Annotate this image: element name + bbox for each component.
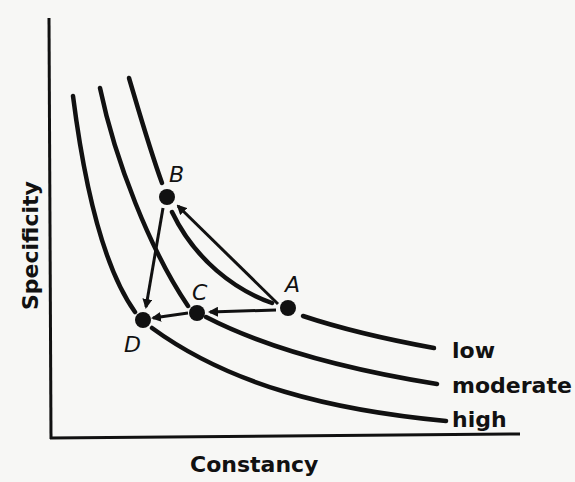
curve-label-low: low	[452, 338, 495, 363]
curve-label-moderate: moderate	[452, 373, 572, 398]
label-B: B	[169, 162, 184, 187]
curve-low-tail	[303, 316, 434, 348]
x-axis-label: Constancy	[190, 452, 318, 477]
y-axis	[49, 18, 51, 439]
arrow-A-to-C	[210, 310, 276, 312]
curve-low	[129, 78, 162, 183]
point-D	[135, 312, 151, 328]
x-axis	[50, 434, 520, 438]
point-C	[189, 305, 205, 321]
y-axis-label: Specificity	[18, 181, 43, 310]
axes	[49, 18, 520, 439]
curve-low-mid	[172, 212, 272, 303]
curve-label-high: high	[452, 407, 507, 432]
diagram-canvas: A B C D low moderate high Constancy Spec…	[0, 0, 575, 482]
arrow-C-to-D	[153, 313, 188, 318]
point-B	[159, 189, 175, 205]
point-A	[280, 300, 296, 316]
curve-labels: low moderate high	[452, 338, 572, 432]
curve-moderate-tail	[206, 317, 437, 384]
label-D: D	[124, 332, 141, 357]
indifference-curves	[73, 78, 446, 421]
label-A: A	[283, 272, 300, 297]
label-C: C	[192, 280, 208, 305]
curve-high	[73, 96, 135, 312]
arrows	[146, 206, 278, 318]
